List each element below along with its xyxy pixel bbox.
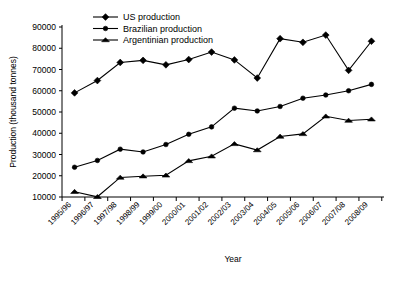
data-point-marker [140, 57, 147, 64]
x-tick-label: 1996/97 [69, 200, 96, 227]
data-point-marker [323, 93, 328, 98]
x-axis-tick-labels: 1995/961996/971997/981998/991999/002000/… [46, 200, 370, 227]
x-tick-label: 1998/99 [115, 200, 142, 227]
data-point-marker [71, 90, 78, 97]
y-tick-label: 30000 [32, 150, 56, 160]
legend-marker-diamond [102, 14, 109, 21]
data-point-marker [255, 109, 260, 114]
data-point-marker [163, 61, 170, 68]
data-point-marker [71, 189, 79, 193]
y-tick-label: 70000 [32, 65, 56, 75]
y-tick-label: 40000 [32, 128, 56, 138]
x-tick-label: 2000/01 [160, 200, 187, 227]
data-point-marker [185, 56, 192, 63]
x-tick-label: 2002/03 [206, 200, 233, 227]
y-axis-tick-labels: 1000020000300004000050000600007000080000… [32, 22, 56, 202]
data-point-marker [141, 150, 146, 155]
data-point-marker [208, 49, 215, 56]
data-point-marker [322, 32, 329, 39]
data-point-marker [322, 114, 330, 118]
x-tick-label: 2005/06 [275, 200, 302, 227]
x-tick-label: 2008/09 [343, 200, 370, 227]
production-line-chart: 1000020000300004000050000600007000080000… [0, 0, 393, 281]
y-tick-label: 20000 [32, 171, 56, 181]
series-line [75, 116, 372, 197]
x-tick-label: 2007/08 [320, 200, 347, 227]
chart-canvas: 1000020000300004000050000600007000080000… [0, 0, 393, 281]
y-tick-label: 10000 [32, 192, 56, 202]
chart-legend: US productionBrazilian productionArgenti… [93, 12, 213, 45]
data-point-marker [186, 132, 191, 137]
data-point-marker [278, 104, 283, 109]
legend-marker-circle [103, 26, 108, 31]
x-tick-label: 1997/98 [92, 200, 119, 227]
series-diamond [71, 32, 375, 97]
x-axis-tick-marks [62, 197, 382, 201]
x-tick-label: 2001/02 [183, 200, 210, 227]
data-point-marker [72, 165, 77, 170]
series-triangle [71, 114, 376, 199]
data-point-marker [231, 142, 239, 146]
data-point-marker [232, 106, 237, 111]
legend-label: Brazilian production [123, 24, 202, 34]
data-point-marker [301, 96, 306, 101]
y-tick-label: 60000 [32, 86, 56, 96]
x-tick-label: 2003/04 [229, 200, 256, 227]
data-point-marker [369, 82, 374, 87]
x-axis-title: Year [224, 254, 241, 264]
data-point-marker [209, 125, 214, 130]
data-point-marker [164, 142, 169, 147]
y-tick-label: 50000 [32, 107, 56, 117]
data-point-marker [346, 88, 351, 93]
y-tick-label: 80000 [32, 43, 56, 53]
series-layer [71, 32, 376, 199]
x-tick-label: 1999/00 [138, 200, 165, 227]
data-point-marker [300, 39, 307, 46]
data-point-marker [95, 158, 100, 163]
legend-label: Argentinian production [123, 35, 213, 45]
data-point-marker [277, 35, 284, 42]
y-axis-title: Production (thousand tonnes) [8, 56, 18, 168]
x-tick-label: 2006/07 [297, 200, 324, 227]
x-tick-label: 1995/96 [46, 200, 73, 227]
data-point-marker [118, 147, 123, 152]
series-circle [72, 82, 373, 169]
legend-label: US production [123, 12, 180, 22]
y-tick-label: 90000 [32, 22, 56, 32]
x-tick-label: 2004/05 [252, 200, 279, 227]
